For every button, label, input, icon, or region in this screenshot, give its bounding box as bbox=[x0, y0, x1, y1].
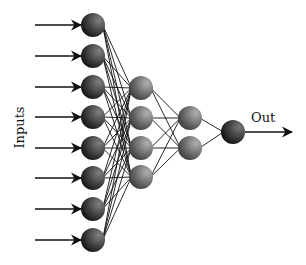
input-neuron bbox=[81, 105, 105, 129]
hidden-2-neuron bbox=[178, 136, 202, 160]
io-arrows bbox=[35, 25, 292, 240]
edge bbox=[151, 118, 181, 177]
edge bbox=[103, 25, 132, 88]
input-neuron bbox=[81, 166, 105, 190]
edge bbox=[200, 132, 224, 148]
hidden-1-neuron bbox=[129, 165, 153, 189]
input-neuron bbox=[81, 136, 105, 160]
edge bbox=[103, 118, 132, 240]
edge bbox=[200, 118, 224, 132]
neurons bbox=[81, 13, 245, 252]
neural-network-diagram: Inputs Out bbox=[0, 0, 306, 265]
hidden-1-neuron bbox=[129, 136, 153, 160]
edge bbox=[151, 88, 181, 118]
edge bbox=[151, 148, 181, 177]
edge bbox=[103, 56, 132, 88]
input-neuron bbox=[81, 44, 105, 68]
inputs-label: Inputs bbox=[12, 103, 27, 153]
network-graph bbox=[0, 0, 306, 265]
output-neuron bbox=[221, 120, 245, 144]
edge bbox=[103, 177, 132, 240]
edge bbox=[103, 88, 132, 209]
output-label: Out bbox=[251, 110, 275, 125]
input-neuron bbox=[81, 75, 105, 99]
hidden-2-neuron bbox=[178, 106, 202, 130]
edge bbox=[103, 87, 132, 88]
hidden-1-neuron bbox=[129, 106, 153, 130]
hidden-1-neuron bbox=[129, 76, 153, 100]
connections bbox=[103, 25, 224, 240]
input-neuron bbox=[81, 197, 105, 221]
input-neuron bbox=[81, 228, 105, 252]
input-neuron bbox=[81, 13, 105, 37]
